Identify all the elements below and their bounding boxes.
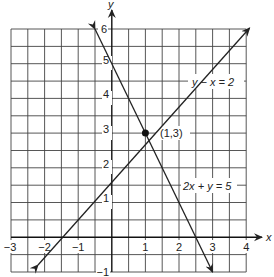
svg-text:4: 4 <box>103 88 109 100</box>
svg-text:−2: −2 <box>38 241 51 253</box>
x-axis-label: x <box>265 231 272 243</box>
svg-text:−1: −1 <box>96 266 109 277</box>
intersection-point <box>142 130 149 137</box>
grid <box>11 29 246 272</box>
svg-text:2: 2 <box>176 241 182 253</box>
svg-text:1: 1 <box>103 192 109 204</box>
axes <box>11 10 262 272</box>
svg-text:4: 4 <box>243 241 249 253</box>
label-masks <box>0 22 252 277</box>
svg-text:3: 3 <box>103 123 109 135</box>
line1-label: y − x = 2 <box>191 76 234 88</box>
svg-text:1: 1 <box>142 241 148 253</box>
coordinate-plane: −3 −2 −1 1 2 3 4 −1 1 2 3 4 5 6 x y y − … <box>0 0 274 277</box>
y-tick-labels: −1 1 2 3 4 5 6 <box>96 23 109 277</box>
point-label: (1,3) <box>160 127 183 139</box>
svg-text:3: 3 <box>210 241 216 253</box>
svg-text:−3: −3 <box>4 241 17 253</box>
svg-text:−1: −1 <box>72 241 85 253</box>
x-tick-labels: −3 −2 −1 1 2 3 4 <box>4 241 250 253</box>
svg-text:5: 5 <box>103 54 109 66</box>
svg-text:2: 2 <box>103 158 109 170</box>
svg-text:6: 6 <box>101 23 107 35</box>
lines <box>38 28 250 272</box>
y-axis-label: y <box>107 0 115 10</box>
line2-label: 2x + y = 5 <box>182 180 232 192</box>
